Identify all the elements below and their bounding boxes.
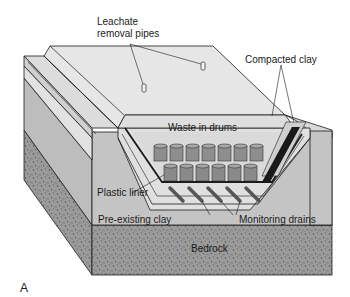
label-leachate-line1: Leachate	[97, 16, 139, 27]
label-plastic-liner: Plastic liner	[97, 187, 149, 198]
drum	[180, 164, 193, 181]
drum	[228, 164, 241, 181]
drum	[218, 144, 231, 161]
drum	[250, 144, 263, 161]
drum	[170, 144, 183, 161]
drum	[186, 144, 199, 161]
drum	[202, 144, 215, 161]
drum	[234, 144, 247, 161]
label-pre-existing-clay: Pre-existing clay	[98, 214, 171, 225]
label-bedrock: Bedrock	[191, 243, 229, 254]
drum	[154, 144, 167, 161]
leachate-pipe-1	[142, 84, 146, 92]
panel-label: A	[20, 281, 28, 295]
label-leachate-line2: removal pipes	[97, 28, 159, 39]
drum	[244, 164, 257, 181]
leachate-pipe-2	[201, 62, 205, 70]
label-waste-in-drums: Waste in drums	[168, 122, 237, 133]
label-monitoring-drains: Monitoring drains	[239, 214, 316, 225]
drum	[164, 164, 177, 181]
drum	[212, 164, 225, 181]
landfill-diagram: Leachate removal pipes Compacted clay Wa…	[0, 0, 350, 297]
drum	[196, 164, 209, 181]
drums-back-row	[154, 144, 263, 161]
label-compacted-clay: Compacted clay	[245, 54, 317, 65]
